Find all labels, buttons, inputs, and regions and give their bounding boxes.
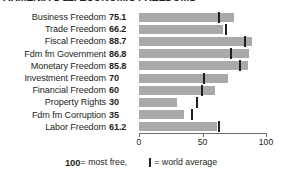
chart-row: Property Rights 30 xyxy=(0,96,282,108)
row-label: Monetary Freedom xyxy=(0,60,106,72)
world-average-marker xyxy=(196,97,198,108)
row-plot xyxy=(139,72,266,84)
row-value: 88.7 xyxy=(109,35,135,47)
row-plot xyxy=(139,35,266,47)
value-bar xyxy=(139,61,248,70)
row-value: 30 xyxy=(109,96,135,108)
legend-marker-text: = world average xyxy=(154,157,217,167)
world-average-marker xyxy=(218,12,220,23)
row-label: Business Freedom xyxy=(0,11,106,23)
row-value: 60 xyxy=(109,84,135,96)
chart-rows: Business Freedom 75.1 Trade Freedom 66.2… xyxy=(0,11,282,133)
world-average-marker xyxy=(203,73,205,84)
legend-scale-text: = most free, xyxy=(81,157,128,167)
chart-row: Labor Freedom 61.2 xyxy=(0,121,282,133)
world-average-marker xyxy=(230,48,232,59)
chart-row: Business Freedom 75.1 xyxy=(0,11,282,23)
world-average-legend-icon xyxy=(149,158,151,167)
row-label: Investment Freedom xyxy=(0,72,106,84)
row-plot xyxy=(139,48,266,60)
x-axis-tick-label: 50 xyxy=(190,137,216,148)
row-plot xyxy=(139,84,266,96)
row-value: 66.2 xyxy=(109,23,135,35)
x-axis-tick-label: 0 xyxy=(126,137,152,148)
row-plot xyxy=(139,109,266,121)
row-label: Property Rights xyxy=(0,96,106,108)
world-average-marker xyxy=(239,60,241,71)
row-label: Trade Freedom xyxy=(0,23,106,35)
row-label: Labor Freedom xyxy=(0,121,106,133)
row-label: Fdm fm Government xyxy=(0,48,106,60)
row-value: 61.2 xyxy=(109,121,135,133)
row-plot xyxy=(139,23,266,35)
world-average-marker xyxy=(201,85,203,96)
chart-row: Financial Freedom 60 xyxy=(0,84,282,96)
legend-scale-number: 100 xyxy=(65,157,81,168)
x-axis-tick-label: 100 xyxy=(253,137,279,148)
row-plot xyxy=(139,60,266,72)
value-bar xyxy=(139,74,228,83)
row-value: 85.8 xyxy=(109,60,135,72)
world-average-marker xyxy=(244,36,246,47)
chart-legend: 100 = most free, = world average xyxy=(0,155,282,169)
row-value: 86.8 xyxy=(109,48,135,60)
value-bar xyxy=(139,98,177,107)
row-label: Financial Freedom xyxy=(0,84,106,96)
chart-title-clipped: ARMENIA'S 12. ECONOMIC FREEDOMS xyxy=(3,0,233,3)
world-average-marker xyxy=(225,24,227,35)
value-bar xyxy=(139,13,234,22)
world-average-marker xyxy=(191,109,193,120)
chart-row: Fdm fm Government 86.8 xyxy=(0,48,282,60)
chart-row: Fdm fm Corruption 35 xyxy=(0,109,282,121)
world-average-marker xyxy=(218,121,220,132)
value-bar xyxy=(139,49,249,58)
row-label: Fiscal Freedom xyxy=(0,35,106,47)
row-value: 70 xyxy=(109,72,135,84)
chart-row: Trade Freedom 66.2 xyxy=(0,23,282,35)
row-value: 75.1 xyxy=(109,11,135,23)
row-plot xyxy=(139,11,266,23)
row-plot xyxy=(139,96,266,108)
row-value: 35 xyxy=(109,109,135,121)
row-label: Fdm fm Corruption xyxy=(0,109,106,121)
economic-freedoms-chart: ARMENIA'S 12. ECONOMIC FREEDOMS Business… xyxy=(0,0,282,177)
value-bar xyxy=(139,86,215,95)
row-plot xyxy=(139,121,266,133)
value-bar xyxy=(139,110,184,119)
chart-row: Investment Freedom 70 xyxy=(0,72,282,84)
value-bar xyxy=(139,25,223,34)
value-bar xyxy=(139,122,217,131)
value-bar xyxy=(139,37,252,46)
chart-row: Monetary Freedom 85.8 xyxy=(0,60,282,72)
page-title: ARMENIA'S 12. ECONOMIC FREEDOMS xyxy=(3,0,233,3)
chart-row: Fiscal Freedom 88.7 xyxy=(0,35,282,47)
